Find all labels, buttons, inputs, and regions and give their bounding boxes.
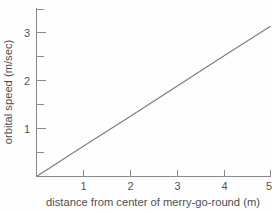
x-tick-label-4: 4 [221, 180, 227, 192]
data-series-line [37, 26, 271, 176]
x-axis-title: distance from center of merry-go-round (… [46, 196, 260, 208]
x-tick-label-3: 3 [174, 180, 180, 192]
line-chart-plot: 1 2 3 1 2 3 4 5 distance from center of … [0, 0, 273, 212]
y-tick-label-1: 1 [24, 123, 30, 135]
y-tick-label-2: 2 [24, 75, 30, 87]
x-tick-label-1: 1 [80, 180, 86, 192]
x-axis-ticks [84, 170, 271, 177]
y-axis-title: orbital speed (m/sec) [2, 40, 14, 145]
y-tick-label-3: 3 [24, 27, 30, 39]
y-axis-ticks [37, 10, 46, 153]
x-tick-label-2: 2 [127, 180, 133, 192]
chart-figure: 1 2 3 1 2 3 4 5 distance from center of … [0, 0, 273, 212]
x-tick-label-5: 5 [266, 180, 272, 192]
